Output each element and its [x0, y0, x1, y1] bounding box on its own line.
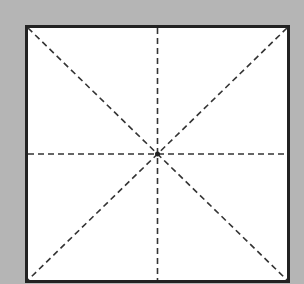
center-dot — [155, 152, 160, 157]
grid-diagram — [0, 0, 304, 284]
